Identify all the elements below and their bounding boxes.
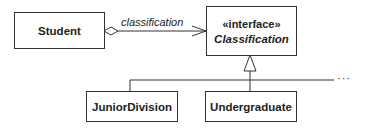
continuation-ellipsis: ··· xyxy=(337,72,351,84)
class-name: Undergraduate xyxy=(210,101,292,113)
association-role-label: classification xyxy=(121,16,183,28)
generalization-triangle-icon xyxy=(244,55,256,71)
class-junior-division[interactable]: JuniorDivision xyxy=(86,91,178,122)
aggregation-diamond-icon xyxy=(104,27,118,35)
stereotype-label: «interface» xyxy=(222,18,280,30)
class-classification[interactable]: «interface» Classification xyxy=(206,6,297,56)
class-student[interactable]: Student xyxy=(14,12,105,49)
class-undergraduate[interactable]: Undergraduate xyxy=(205,91,297,122)
class-name: JuniorDivision xyxy=(92,101,172,113)
class-name: Classification xyxy=(214,33,289,45)
class-name: Student xyxy=(38,25,81,37)
